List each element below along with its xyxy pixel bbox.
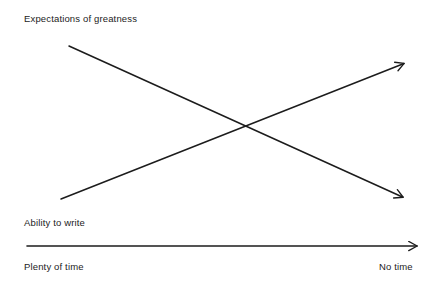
axis-end-label: No time (379, 261, 413, 273)
expectations-label: Expectations of greatness (24, 13, 137, 25)
axis-start-label: Plenty of time (24, 261, 84, 273)
diagram-vector-layer (0, 0, 440, 294)
ability-trend-line (61, 64, 404, 200)
expectations-trend-line (69, 46, 403, 197)
diagram-canvas: Expectations of greatness Ability to wri… (0, 0, 440, 294)
ability-label: Ability to write (24, 217, 85, 229)
